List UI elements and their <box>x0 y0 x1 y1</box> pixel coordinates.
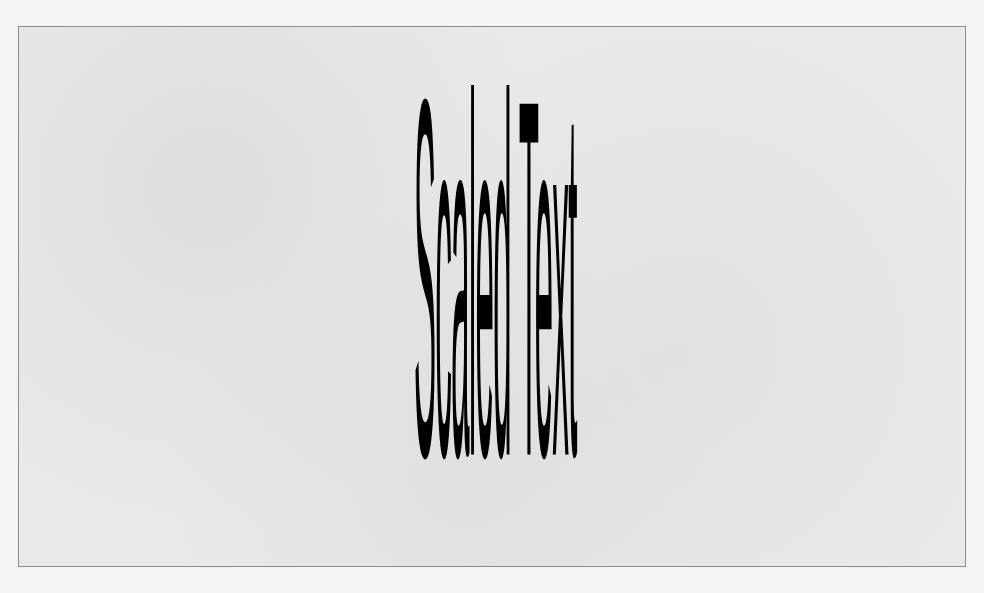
scaled-text: Scaled Text <box>414 26 577 531</box>
canvas-frame: Scaled Text <box>18 26 966 567</box>
scaled-text-container: Scaled Text <box>414 26 574 521</box>
